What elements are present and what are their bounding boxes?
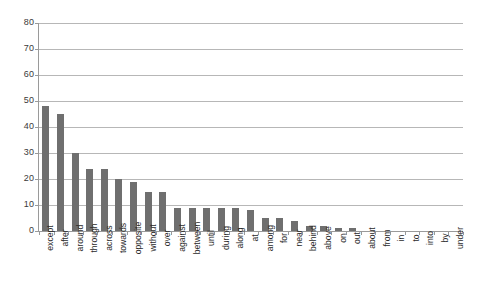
bar: [101, 169, 108, 231]
x-axis-category-label: out: [346, 236, 361, 292]
x-axis-category-label: above: [317, 236, 332, 292]
y-axis-tick-label: 20: [0, 174, 34, 183]
x-axis-category-label: under: [448, 236, 463, 292]
x-axis-category-label: along: [229, 236, 244, 292]
x-axis-category-label: between: [185, 236, 200, 292]
x-axis-category-label: opposite: [127, 236, 142, 292]
x-axis-tick-origin: [39, 232, 40, 235]
x-axis-category-label: against: [171, 236, 186, 292]
x-axis-category-label: to: [405, 236, 420, 292]
plot-area: [39, 23, 463, 231]
x-axis-labels: exceptafteraroundthroughacrosstowardsopp…: [39, 236, 463, 293]
x-axis-category-label: in: [390, 236, 405, 292]
x-axis-category-label: through: [83, 236, 98, 292]
x-axis-category-label: until: [200, 236, 215, 292]
bar: [203, 208, 210, 231]
y-axis-tick-label: 30: [0, 148, 34, 157]
y-axis-tick-label: 70: [0, 44, 34, 53]
y-axis-tick-label: 0: [0, 226, 34, 235]
bar: [42, 106, 49, 231]
y-axis-tick-label: 60: [0, 70, 34, 79]
bar: [57, 114, 64, 231]
x-axis-category-label: without: [141, 236, 156, 292]
x-axis-category-label: by: [434, 236, 449, 292]
x-axis-category-label: except: [39, 236, 54, 292]
bar: [335, 228, 342, 231]
x-axis-category-label: behind: [302, 236, 317, 292]
bar: [86, 169, 93, 231]
x-axis-category-label: towards: [112, 236, 127, 292]
y-axis-tick-label: 10: [0, 200, 34, 209]
x-axis-category-label: near: [288, 236, 303, 292]
x-axis-category-label: from: [375, 236, 390, 292]
bar-series: [39, 23, 463, 231]
x-axis-category-label: on: [331, 236, 346, 292]
x-axis-category-label: for: [273, 236, 288, 292]
x-axis-category-label: about: [361, 236, 376, 292]
x-axis-category-label: at: [244, 236, 259, 292]
x-axis-category-label: among: [258, 236, 273, 292]
bar: [349, 228, 356, 231]
bar: [276, 218, 283, 231]
x-axis-category-label: after: [54, 236, 69, 292]
y-axis-tick-label: 80: [0, 18, 34, 27]
bar: [159, 192, 166, 231]
x-axis-category-label: around: [68, 236, 83, 292]
x-axis-category-text: under: [456, 227, 465, 249]
bar: [247, 210, 254, 231]
y-axis-tick-label: 40: [0, 122, 34, 131]
bar-chart: 01020304050607080 exceptafteraroundthrou…: [0, 0, 479, 293]
y-axis-tick-label: 50: [0, 96, 34, 105]
x-axis-category-label: across: [97, 236, 112, 292]
bar: [72, 153, 79, 231]
y-axis-labels: 01020304050607080: [0, 0, 34, 293]
x-axis-category-label: during: [214, 236, 229, 292]
x-axis-category-label: into: [419, 236, 434, 292]
x-axis-category-label: over: [156, 236, 171, 292]
